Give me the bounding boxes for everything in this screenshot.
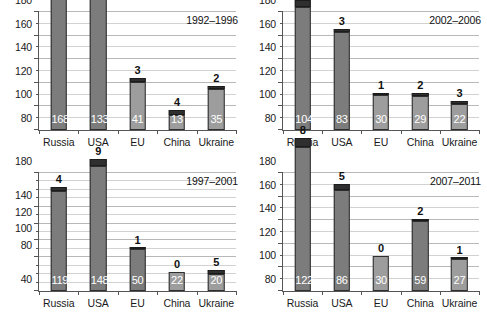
y-axis-tick-major [278, 58, 283, 59]
figure-stacked-bar-grid: 801001201401601801687Russia13311USA413EU… [0, 0, 487, 322]
x-axis-tick [440, 291, 441, 295]
bar-segment-upper [451, 101, 467, 105]
x-axis-tick [322, 291, 323, 295]
bar-segment-lower: 22 [451, 104, 467, 130]
bar-segment-lower: 30 [373, 95, 389, 130]
y-axis-label: 80 [265, 273, 276, 285]
y-axis-tick-major [34, 223, 39, 224]
x-axis-tick [39, 130, 40, 134]
y-axis-tick-major [278, 266, 283, 267]
y-axis-label: 160 [259, 179, 276, 191]
bar-segment-upper [208, 270, 225, 274]
y-axis-tick-major [34, 239, 39, 240]
x-axis-category-label: Russia [287, 297, 319, 309]
y-axis-tick [280, 184, 283, 185]
bar-value-lower: 30 [374, 114, 388, 125]
bar-group: 292 [412, 12, 428, 130]
y-axis-label: 120 [259, 65, 276, 77]
x-axis-tick [401, 291, 402, 295]
bar-segment-lower: 59 [412, 221, 428, 291]
y-axis-tick [280, 278, 283, 279]
bar-segment-upper [412, 93, 428, 95]
y-axis-label: 40 [21, 273, 32, 285]
y-axis-tick [36, 265, 39, 266]
bar-group: 501 [129, 173, 146, 291]
y-axis-tick [36, 189, 39, 190]
x-axis-category-label: USA [331, 297, 352, 309]
y-axis-tick [280, 70, 283, 71]
x-axis-tick [440, 130, 441, 134]
y-axis-label: 140 [15, 189, 32, 201]
plot-area: 801001201401601801228Russia865USA300EU59… [282, 173, 479, 292]
y-axis-label: 140 [259, 41, 276, 53]
bar-value-lower: 86 [335, 275, 349, 286]
bar-value-upper: 3 [334, 16, 350, 27]
bar-group: 271 [451, 173, 467, 291]
y-axis-label: 100 [15, 88, 32, 100]
y-axis-tick-major [34, 172, 39, 173]
bar-group: 134 [169, 12, 186, 130]
bar-segment-lower: 133 [90, 0, 107, 130]
y-axis-label: 80 [21, 112, 32, 124]
x-axis-category-label: Russia [43, 297, 75, 309]
y-axis-label: 120 [15, 206, 32, 218]
x-axis-category-label: USA [87, 297, 108, 309]
bar-segment-upper [334, 184, 350, 190]
bar-segment-lower: 22 [169, 272, 186, 291]
bar-segment-upper [373, 93, 389, 95]
x-axis-tick [283, 130, 284, 134]
bar-value-upper: 4 [50, 174, 67, 185]
bar-value-upper: 2 [412, 80, 428, 91]
y-axis-tick [36, 180, 39, 181]
y-axis-tick-major [278, 35, 283, 36]
y-axis-tick [36, 117, 39, 118]
panel-title: 1997–2001 [186, 175, 238, 187]
bar-segment-upper [169, 110, 186, 115]
x-axis-category-label: China [163, 136, 190, 148]
bar-segment-upper [50, 187, 67, 190]
y-axis-label: 80 [21, 239, 32, 251]
y-axis-label: 180 [259, 0, 276, 6]
bar-group: 352 [208, 12, 225, 130]
bar-value-lower: 22 [170, 275, 185, 286]
bar-value-lower: 83 [335, 114, 349, 125]
bar-group: 1194 [50, 173, 67, 291]
bar-segment-upper [451, 257, 467, 259]
bar-segment-lower: 13 [169, 115, 186, 130]
y-axis-tick [280, 207, 283, 208]
x-axis-category-label: Ukraine [442, 136, 477, 148]
y-axis-tick-major [34, 206, 39, 207]
bar-value-upper: 0 [373, 243, 389, 254]
bar-value-upper: 0 [169, 259, 186, 270]
bar-segment-lower: 35 [208, 89, 225, 130]
bar-value-upper: 1 [451, 245, 467, 256]
x-axis-tick [39, 291, 40, 295]
y-axis-tick [36, 94, 39, 95]
y-axis-tick-major [34, 256, 39, 257]
y-axis-tick-major [278, 11, 283, 12]
bar-group: 1687 [50, 12, 67, 130]
bar-value-upper: 1 [129, 235, 146, 246]
x-axis-tick [197, 291, 198, 295]
bar-segment-upper [129, 247, 146, 249]
y-axis-tick-major [278, 82, 283, 83]
y-axis-tick [36, 46, 39, 47]
x-axis-tick [283, 291, 284, 295]
bar-value-lower: 148 [91, 275, 106, 286]
bar-value-upper: 8 [294, 125, 310, 136]
bar-value-upper: 2 [208, 73, 225, 84]
x-axis-tick [157, 130, 158, 134]
bar-value-lower: 20 [209, 275, 224, 286]
x-axis-category-label: China [407, 136, 434, 148]
bar-group: 1228 [294, 173, 310, 291]
bar-segment-lower: 20 [208, 274, 225, 291]
bar-segment-upper [412, 219, 428, 221]
bar-value-lower: 29 [413, 114, 427, 125]
bar-value-upper: 3 [129, 65, 146, 76]
y-axis-label: 140 [15, 41, 32, 53]
bar-group: 301 [373, 12, 389, 130]
y-axis-tick-major [278, 105, 283, 106]
x-axis-category-label: China [407, 297, 434, 309]
bar-value-lower: 27 [452, 275, 466, 286]
bar-value-lower: 133 [91, 114, 106, 125]
